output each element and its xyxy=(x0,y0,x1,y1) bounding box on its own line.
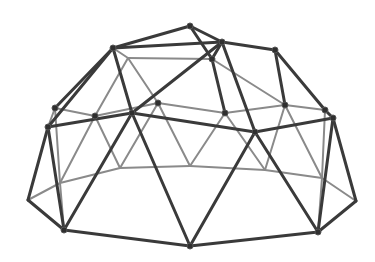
hub-connector xyxy=(219,39,225,45)
geodesic-dome-drawing xyxy=(0,0,375,262)
strut xyxy=(255,118,333,132)
strut xyxy=(64,230,190,246)
strut xyxy=(158,103,190,166)
hub-connector xyxy=(322,107,328,113)
hub-connector xyxy=(61,227,67,233)
hub-connector xyxy=(187,243,193,249)
strut xyxy=(265,105,285,170)
hub-connector xyxy=(45,124,51,130)
hub-connector xyxy=(155,100,161,106)
strut xyxy=(225,113,265,170)
hub-connector xyxy=(252,129,258,135)
hub-connector xyxy=(209,56,215,62)
strut xyxy=(222,42,255,132)
strut xyxy=(132,113,190,246)
hub-connector xyxy=(129,110,135,116)
dome-climber-photo xyxy=(0,0,375,262)
strut xyxy=(60,168,120,183)
strut xyxy=(28,127,48,200)
strut xyxy=(60,116,95,183)
hub-connector xyxy=(330,115,336,121)
hub-connector xyxy=(222,110,228,116)
strut xyxy=(275,50,325,110)
strut xyxy=(190,132,255,246)
hub-connector xyxy=(92,113,98,119)
strut xyxy=(190,232,318,246)
strut xyxy=(225,105,285,113)
strut xyxy=(285,105,325,110)
strut xyxy=(190,166,265,170)
strut xyxy=(64,113,132,230)
strut xyxy=(190,113,225,166)
strut xyxy=(285,105,322,178)
hub-connector xyxy=(282,102,288,108)
strut xyxy=(132,113,255,132)
hub-connector xyxy=(110,45,116,51)
hub-connector xyxy=(187,23,193,29)
strut xyxy=(318,201,356,232)
hub-connector xyxy=(52,105,58,111)
hub-connector xyxy=(315,229,321,235)
strut xyxy=(265,170,322,178)
strut xyxy=(222,42,275,50)
hub-connectors xyxy=(45,23,336,249)
hub-connector xyxy=(272,47,278,53)
strut xyxy=(255,132,318,232)
strut xyxy=(158,103,225,113)
